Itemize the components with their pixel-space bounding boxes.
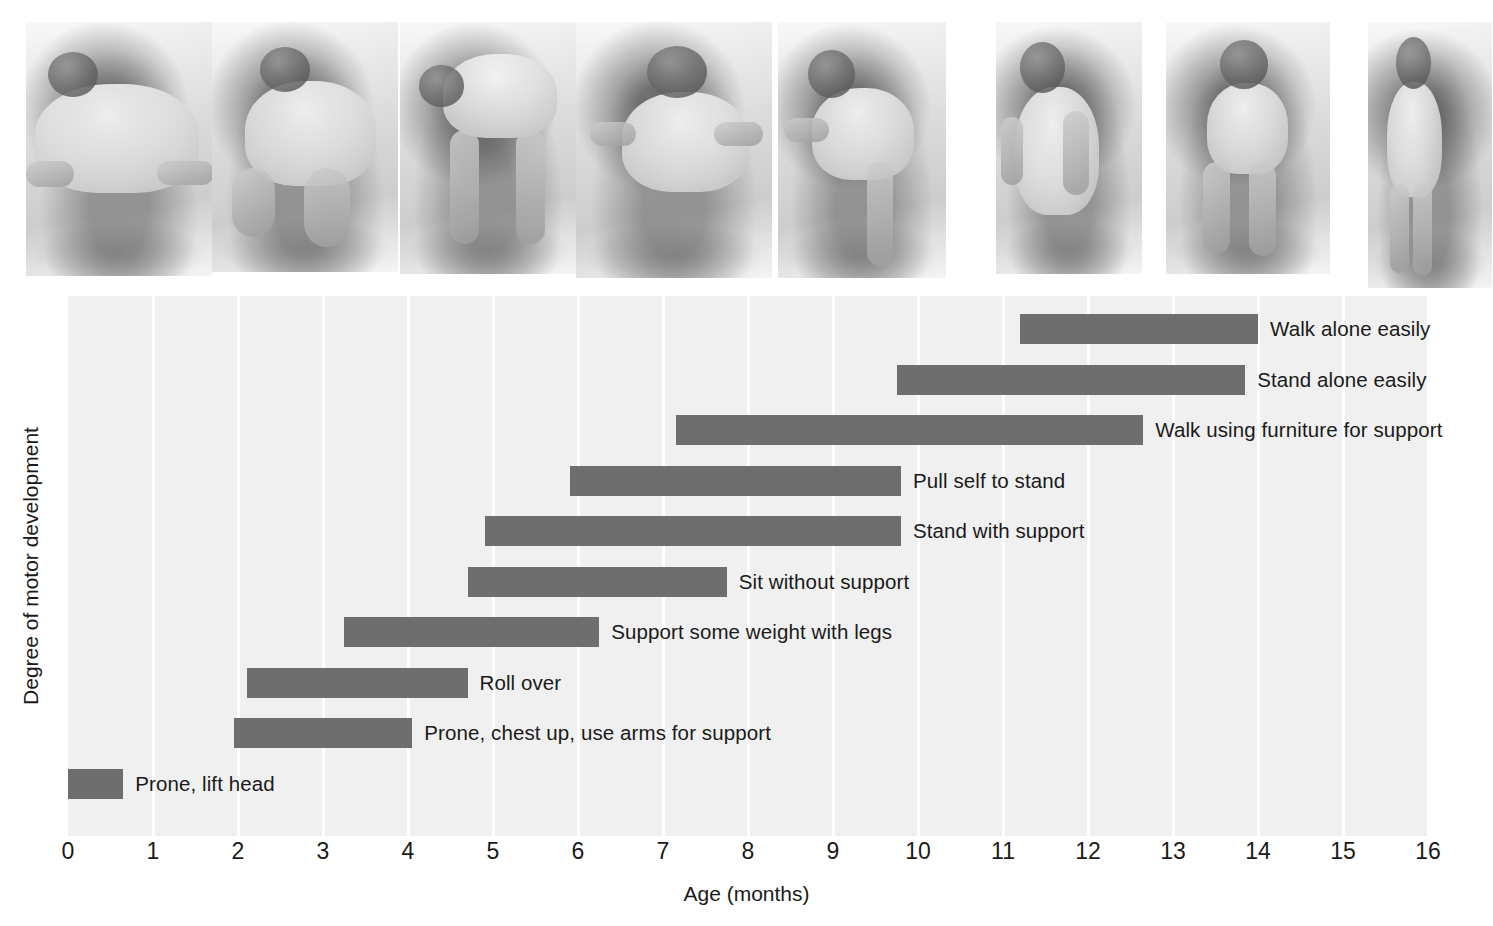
bar-milestone xyxy=(897,365,1246,395)
gridline-month-4 xyxy=(407,296,410,836)
bar-milestone xyxy=(68,769,123,799)
x-tick-16: 16 xyxy=(1415,838,1441,865)
bar-milestone xyxy=(676,415,1144,445)
x-tick-7: 7 xyxy=(657,838,670,865)
x-tick-13: 13 xyxy=(1160,838,1186,865)
bar-label: Stand alone easily xyxy=(1257,365,1426,395)
bar-milestone xyxy=(468,567,727,597)
bar-label: Support some weight with legs xyxy=(611,617,892,647)
x-tick-11: 11 xyxy=(991,838,1015,865)
motor-development-chart: Degree of motor development Walk alone e… xyxy=(0,0,1493,926)
gridline-month-1 xyxy=(152,296,155,836)
bar-label: Walk alone easily xyxy=(1270,314,1430,344)
x-tick-14: 14 xyxy=(1245,838,1271,865)
bar-label: Walk using furniture for support xyxy=(1155,415,1442,445)
bar-label: Sit without support xyxy=(739,567,910,597)
bar-milestone xyxy=(344,617,599,647)
x-tick-9: 9 xyxy=(827,838,840,865)
bar-label: Pull self to stand xyxy=(913,466,1065,496)
bar-milestone xyxy=(570,466,902,496)
y-axis-title: Degree of motor development xyxy=(14,296,48,836)
x-tick-1: 1 xyxy=(147,838,160,865)
gridline-month-3 xyxy=(322,296,325,836)
gridline-month-2 xyxy=(237,296,240,836)
x-tick-10: 10 xyxy=(905,838,931,865)
bar-milestone xyxy=(247,668,468,698)
bar-milestone xyxy=(485,516,902,546)
x-tick-12: 12 xyxy=(1075,838,1101,865)
x-axis-title: Age (months) xyxy=(0,882,1493,906)
x-tick-0: 0 xyxy=(62,838,75,865)
x-tick-6: 6 xyxy=(572,838,585,865)
bar-milestone xyxy=(234,718,413,748)
bar-label: Prone, lift head xyxy=(135,769,275,799)
x-tick-15: 15 xyxy=(1330,838,1356,865)
bar-label: Prone, chest up, use arms for support xyxy=(424,718,771,748)
x-tick-5: 5 xyxy=(487,838,500,865)
bar-milestone xyxy=(1020,314,1258,344)
x-tick-2: 2 xyxy=(232,838,245,865)
x-tick-8: 8 xyxy=(742,838,755,865)
plot-area: Walk alone easilyStand alone easilyWalk … xyxy=(68,296,1428,836)
x-tick-4: 4 xyxy=(402,838,415,865)
bar-label: Stand with support xyxy=(913,516,1085,546)
bar-label: Roll over xyxy=(480,668,562,698)
x-tick-3: 3 xyxy=(317,838,330,865)
x-axis-ticks: 012345678910111213141516 xyxy=(68,838,1428,878)
